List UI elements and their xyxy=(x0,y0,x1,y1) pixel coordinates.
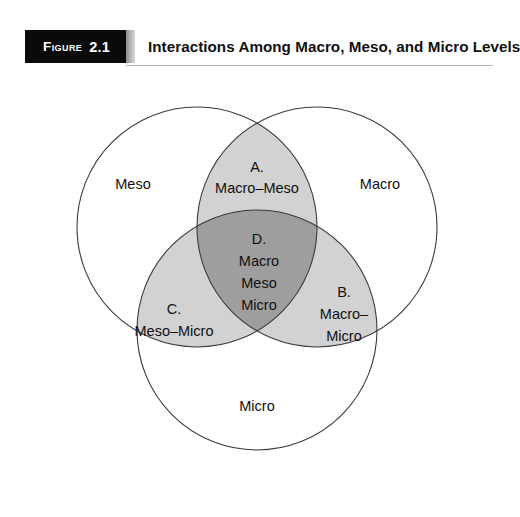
venn-label-d-key: D. xyxy=(252,231,267,247)
venn-label-b-key: B. xyxy=(337,284,351,300)
figure-tag-shadow xyxy=(126,30,135,63)
figure-number-tag: Figure 2.1 xyxy=(25,30,126,63)
venn-label-micro: Micro xyxy=(239,398,274,414)
figure-number-label: 2.1 xyxy=(89,39,110,55)
venn-label-d-text-2: Meso xyxy=(241,275,276,291)
venn-label-d-text-1: Macro xyxy=(239,253,279,269)
venn-label-c-text: Meso–Micro xyxy=(135,323,214,339)
figure-word-label: Figure xyxy=(43,39,82,54)
venn-svg: Meso Macro Micro A. Macro–Meso D. Macro … xyxy=(0,62,514,502)
venn-label-macro: Macro xyxy=(360,176,400,192)
venn-label-b-text-2: Micro xyxy=(326,328,361,344)
venn-label-meso: Meso xyxy=(115,176,150,192)
figure-title: Interactions Among Macro, Meso, and Micr… xyxy=(148,30,520,63)
venn-label-d-text-3: Micro xyxy=(241,297,276,313)
venn-label-b-text-1: Macro– xyxy=(320,306,369,322)
venn-diagram: Meso Macro Micro A. Macro–Meso D. Macro … xyxy=(0,62,514,502)
venn-label-a-text: Macro–Meso xyxy=(215,180,299,196)
venn-label-c-key: C. xyxy=(167,301,182,317)
venn-label-a-key: A. xyxy=(250,159,264,175)
